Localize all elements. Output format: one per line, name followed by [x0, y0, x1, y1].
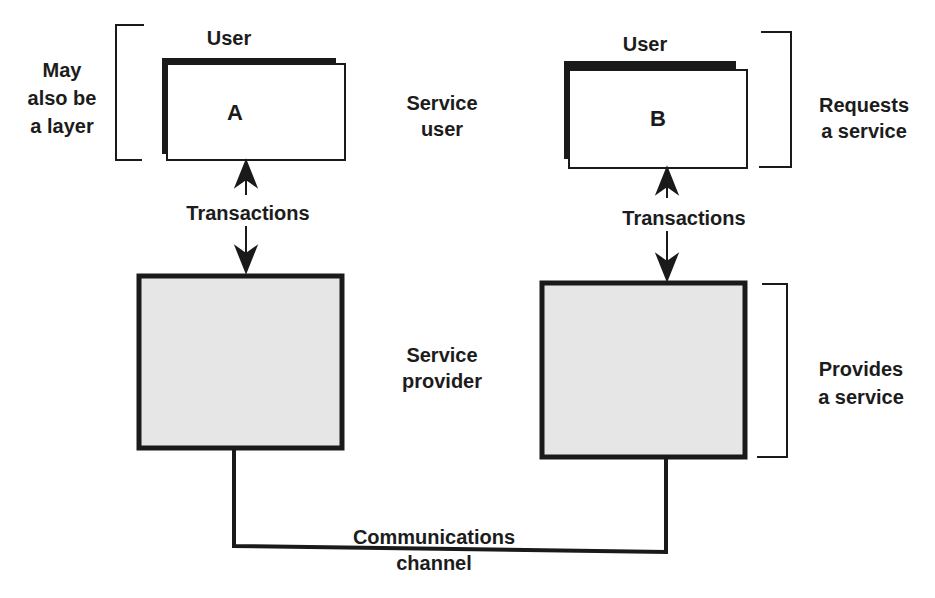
user-box-a-label: A — [215, 100, 255, 126]
left-bracket — [116, 25, 144, 160]
user-box-b-label: B — [638, 106, 678, 132]
provider-box-right — [542, 283, 745, 457]
role-service-user: Service user — [382, 90, 502, 142]
right-top-bracket — [759, 32, 791, 167]
communications-channel-label: Communications channel — [330, 524, 538, 576]
right-user-title: User — [614, 32, 676, 56]
provides-service-label: Provides a service — [804, 355, 918, 411]
role-service-provider: Service provider — [380, 342, 504, 394]
left-user-title: User — [198, 26, 260, 50]
left-bracket-label: May also be a layer — [10, 56, 114, 140]
provider-box-left — [139, 276, 342, 448]
right-bottom-bracket — [757, 284, 787, 457]
right-transactions-label: Transactions — [606, 206, 762, 230]
requests-service-label: Requests a service — [806, 92, 922, 144]
left-transactions-label: Transactions — [176, 201, 320, 225]
